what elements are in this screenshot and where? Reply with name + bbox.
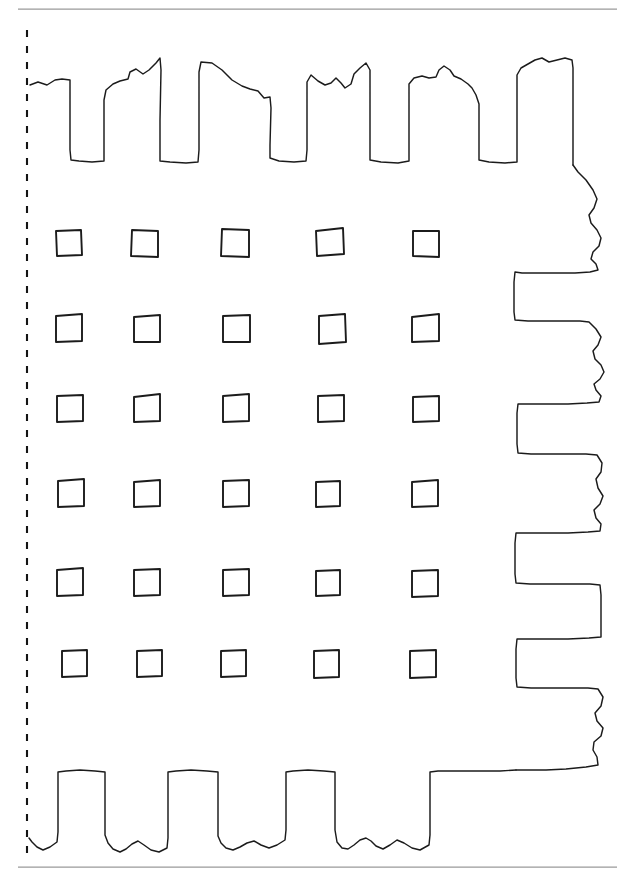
aperture-r5c3: [223, 569, 249, 596]
aperture-r1c3: [221, 229, 249, 257]
aperture-r2c3: [223, 315, 250, 342]
aperture-r3c2: [134, 394, 160, 422]
aperture-row-6: [62, 650, 436, 678]
aperture-row-2: [56, 314, 439, 344]
aperture-r3c5: [413, 396, 439, 422]
aperture-r6c1: [62, 650, 87, 677]
aperture-r4c4: [316, 481, 340, 507]
aperture-r6c3: [221, 650, 246, 677]
aperture-r2c1: [56, 314, 82, 342]
aperture-r5c2: [134, 569, 160, 596]
aperture-r5c5: [412, 570, 438, 597]
aperture-r1c2: [131, 230, 158, 257]
aperture-r6c5: [410, 650, 436, 678]
aperture-r4c1: [58, 479, 84, 507]
aperture-r3c1: [57, 395, 83, 422]
aperture-r3c3: [223, 394, 249, 422]
aperture-row-1: [56, 228, 439, 257]
aperture-r5c4: [316, 570, 340, 596]
aperture-r4c2: [134, 480, 160, 507]
woven-fabric-drawing: [0, 0, 629, 875]
aperture-r5c1: [57, 568, 83, 596]
figure-canvas: Woven fabric swatch with square aperture…: [0, 0, 629, 875]
aperture-r1c4: [316, 228, 344, 256]
aperture-r1c5: [413, 231, 439, 257]
bottom-fringe: [29, 770, 516, 852]
aperture-row-5: [57, 568, 438, 597]
aperture-r2c2: [134, 315, 160, 342]
right-selvage: [514, 165, 604, 770]
aperture-r3c4: [318, 395, 344, 422]
aperture-r6c2: [137, 650, 162, 677]
aperture-row-4: [58, 479, 438, 507]
aperture-row-3: [57, 394, 439, 422]
aperture-r4c3: [223, 480, 249, 507]
top-fringe: [30, 58, 573, 165]
aperture-r4c5: [412, 480, 438, 507]
aperture-r2c5: [412, 314, 439, 342]
aperture-r1c1: [56, 230, 82, 256]
aperture-r6c4: [314, 650, 339, 678]
aperture-r2c4: [319, 314, 346, 344]
